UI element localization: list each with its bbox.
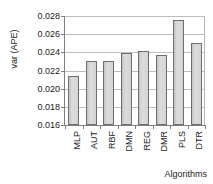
bar — [138, 51, 149, 125]
x-axis-tick-mark — [65, 125, 66, 129]
y-axis-tick-label: 0.026 — [37, 29, 60, 39]
y-axis-tick-label: 0.024 — [37, 47, 60, 57]
x-axis-tick-mark — [100, 125, 101, 129]
bar — [173, 20, 184, 125]
x-axis-tick-mark — [170, 125, 171, 129]
x-axis-tick-mark — [83, 125, 84, 129]
x-axis-tick-mark — [118, 125, 119, 129]
x-axis-tick-label: RBF — [107, 131, 117, 149]
bars — [65, 16, 205, 125]
bar — [191, 43, 202, 125]
x-axis-tick-label: DTR — [194, 131, 204, 150]
x-axis-tick-label: DMR — [159, 131, 169, 152]
x-axis-tick-label: DMN — [124, 131, 134, 152]
x-axis-tick-label: REG — [142, 131, 152, 151]
bar — [68, 76, 79, 125]
bar-chart: var (APE) 0.0280.0260.0240.0220.0200.018… — [0, 0, 213, 184]
y-axis-tick-labels: 0.0280.0260.0240.0220.0200.0180.016 — [22, 0, 60, 184]
y-axis-tick-label: 0.016 — [37, 120, 60, 130]
y-axis-tick-label: 0.022 — [37, 66, 60, 76]
y-axis-title: var (APE) — [9, 9, 19, 89]
y-axis-tick-label: 0.018 — [37, 102, 60, 112]
x-axis-tick-label: AUT — [89, 131, 99, 149]
bar — [86, 61, 97, 125]
x-axis-tick-mark — [153, 125, 154, 129]
y-axis-tick-label: 0.020 — [37, 84, 60, 94]
x-axis-tick-label: MLP — [72, 131, 82, 150]
bar — [121, 53, 132, 125]
bar — [103, 61, 114, 125]
x-axis-title: Algorithms — [164, 169, 207, 179]
plot-area — [64, 16, 205, 126]
x-axis-tick-mark — [188, 125, 189, 129]
x-axis-tick-label: PLS — [177, 131, 187, 148]
x-axis-tick-mark — [205, 125, 206, 129]
x-axis-tick-mark — [135, 125, 136, 129]
x-axis-tick-labels: MLPAUTRBFDMNREGDMRPLSDTR — [64, 131, 204, 173]
y-axis-tick-label: 0.028 — [37, 11, 60, 21]
bar — [156, 55, 167, 125]
